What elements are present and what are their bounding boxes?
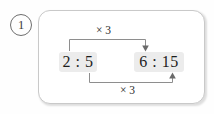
bottom-multiplier-label: × 3	[120, 84, 135, 96]
top-multiplier-label: × 3	[96, 24, 111, 36]
left-ratio-chip: 2 : 5	[59, 52, 97, 72]
right-ratio-chip: 6 : 15	[134, 52, 184, 72]
ratio-figure: 1 2 : 5 6 : 15 × 3 × 3	[0, 0, 214, 114]
item-number-badge: 1	[10, 14, 32, 36]
